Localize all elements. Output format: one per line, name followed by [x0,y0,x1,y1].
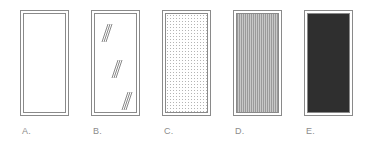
glint-mark-icon [120,90,134,112]
panel-e-inner-dark [307,13,350,113]
panel-d [233,10,282,116]
panel-a-inner-empty [23,13,66,113]
label-e: E. [306,126,315,136]
glint-mark-icon [100,22,114,44]
panel-b [91,10,140,116]
label-c: C. [164,126,174,136]
panel-d-inner-stripes [236,13,279,113]
label-a: A. [22,126,31,136]
panel-e [304,10,353,116]
glint-mark-icon [110,58,124,80]
label-b: B. [93,126,102,136]
label-d: D. [235,126,245,136]
panel-b-inner-glass [94,13,137,113]
panel-a [20,10,69,116]
panel-c-inner-dotted [165,13,208,113]
panel-c [162,10,211,116]
